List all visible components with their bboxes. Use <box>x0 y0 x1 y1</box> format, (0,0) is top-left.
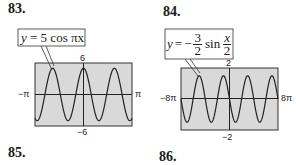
graphs-canvas <box>0 0 296 165</box>
graph-84-ymin-label: −2 <box>222 132 232 142</box>
eq84-frac-den: 2 <box>194 45 201 57</box>
eq84-y: y <box>167 36 173 52</box>
graph-83-xmin-label: −π <box>18 89 29 99</box>
eq84-eq: = <box>175 36 182 52</box>
graph-83-ymin-label: −6 <box>77 127 87 137</box>
eq84-arg: x 2 <box>223 32 231 57</box>
eq84-fn: sin <box>205 36 220 52</box>
graph-83-equation: y = 5 cos πx <box>21 30 84 46</box>
eq84-arg-den: 2 <box>224 45 231 57</box>
eq84-minus: − <box>184 36 191 52</box>
eq83-rest: = 5 cos πx <box>27 30 84 45</box>
graph-83-xmax-label: π <box>135 89 141 99</box>
graph-83-ymax-label: 6 <box>80 53 85 63</box>
graph-84-ymax-label: 2 <box>226 58 231 68</box>
graph-84-xmax-label: 8π <box>281 93 292 103</box>
graph-84-equation: y = − 3 2 sin x 2 <box>167 30 231 58</box>
graph-84-xmin-label: −8π <box>160 93 176 103</box>
eq84-frac: 3 2 <box>193 32 202 57</box>
